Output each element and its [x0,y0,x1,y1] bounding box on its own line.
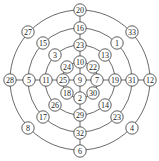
node-15: 15 [37,37,49,49]
node-6: 6 [74,145,86,157]
node-label: 33 [128,28,136,37]
node-label: 26 [51,101,59,110]
node-17: 17 [37,111,49,123]
node-label: 23 [76,41,84,50]
node-label: 15 [39,39,47,48]
node-2: 2 [74,92,86,104]
node-label: 7 [95,76,99,85]
node-label: 19 [111,76,119,85]
node-3: 3 [49,49,61,61]
node-label: 6 [78,147,82,156]
node-label: 2 [78,94,82,103]
node-label: 3 [53,51,57,60]
node-label: 9 [78,76,82,85]
node-label: 32 [76,129,84,138]
node-label: 8 [26,124,30,133]
node-27: 27 [22,26,34,38]
node-label: 30 [89,89,97,98]
node-label: 12 [146,76,154,85]
node-13: 13 [99,49,111,61]
node-label: 23 [113,113,121,122]
node-22: 22 [87,61,99,73]
node-23: 23 [74,39,86,51]
node-30: 30 [87,87,99,99]
node-label: 14 [101,101,109,110]
node-8: 8 [22,122,34,134]
node-label: 10 [76,58,84,67]
node-label: 5 [27,76,31,85]
node-label: 16 [76,24,84,33]
node-32: 32 [74,127,86,139]
concentric-ring-diagram: 9102316202293262511528719311224221830313… [0,0,159,161]
node-33: 33 [126,26,138,38]
node-label: 13 [101,51,109,60]
node-5: 5 [23,74,35,86]
node-label: 18 [63,89,71,98]
node-label: 4 [130,124,134,133]
node-label: 27 [24,28,32,37]
node-label: 11 [42,76,50,85]
node-19: 19 [109,74,121,86]
node-label: 28 [6,76,14,85]
node-20: 20 [74,4,86,16]
node-16: 16 [74,22,86,34]
node-label: 20 [76,6,84,15]
node-18: 18 [61,87,73,99]
node-25: 25 [57,74,69,86]
node-10: 10 [74,56,86,68]
node-11: 11 [40,74,52,86]
node-23: 23 [111,111,123,123]
node-29: 29 [74,109,86,121]
node-4: 4 [126,122,138,134]
node-label: 1 [115,39,119,48]
node-24: 24 [61,61,73,73]
node-14: 14 [99,99,111,111]
node-label: 22 [89,63,97,72]
node-label: 24 [63,63,71,72]
node-group: 9102316202293262511528719311224221830313… [4,4,156,157]
node-1: 1 [111,37,123,49]
node-label: 17 [39,113,47,122]
node-label: 31 [128,76,136,85]
node-31: 31 [126,74,138,86]
node-label: 29 [76,111,84,120]
node-label: 25 [59,76,67,85]
node-7: 7 [91,74,103,86]
node-12: 12 [144,74,156,86]
node-9: 9 [74,74,86,86]
node-28: 28 [4,74,16,86]
node-26: 26 [49,99,61,111]
